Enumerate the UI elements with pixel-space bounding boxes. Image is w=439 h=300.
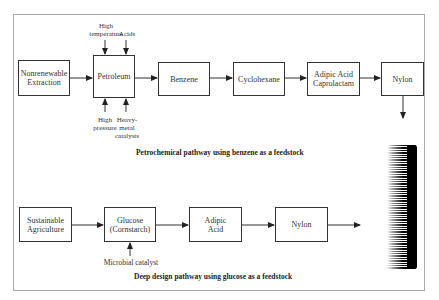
caption-petrochemical: Petrochemical pathway using benzene as a… — [136, 148, 304, 157]
node-nylon-deep-design: Nylon — [275, 207, 328, 242]
node-label-line2: (Cornstarch) — [110, 225, 150, 234]
node-label: Nylon — [393, 75, 413, 84]
node-nonrenewable-extraction: Nonrenewable Extraction — [18, 60, 70, 96]
node-label-line1: Adipic Acid — [314, 70, 353, 79]
node-adipic-acid-caprolactam: Adipic Acid Caprolactam — [307, 62, 360, 96]
input-label-line1: Acids — [114, 30, 140, 38]
node-sustainable-agriculture: Sustainable Agriculture — [19, 207, 72, 242]
node-label: Nylon — [292, 220, 312, 229]
input-label-line3: catalysts — [112, 132, 142, 140]
node-label-line1: Nonrenewable — [21, 69, 68, 78]
input-microbial-catalyst: Microbial catalyst — [100, 259, 162, 267]
node-label: Benzene — [170, 75, 198, 84]
node-label: Cyclohexane — [238, 75, 280, 84]
input-label-line2: metal — [112, 124, 142, 132]
node-adipic-acid: Adipic Acid — [189, 207, 242, 242]
caption-deep-design: Deep design pathway using glucose as a f… — [134, 272, 292, 281]
input-label-line1: Microbial catalyst — [100, 259, 162, 267]
comb-spine — [407, 145, 417, 269]
node-nylon-petrochemical: Nylon — [381, 62, 424, 96]
node-petroleum: Petroleum — [93, 55, 135, 98]
node-label-line1: Glucose — [117, 216, 143, 225]
node-cyclohexane: Cyclohexane — [233, 62, 285, 96]
input-heavy-metal-catalysts: Heavy- metal catalysts — [112, 116, 142, 140]
node-label-line2: Agriculture — [27, 225, 64, 234]
node-label-line2: Acid — [208, 225, 224, 234]
node-glucose: Glucose (Cornstarch) — [104, 207, 156, 242]
node-label: Petroleum — [98, 72, 131, 81]
node-label-line1: Sustainable — [27, 216, 64, 225]
node-label-line1: Adipic — [205, 216, 227, 225]
node-label-line2: Extraction — [27, 78, 60, 87]
input-label-line1: High — [84, 22, 128, 30]
input-label-line1: Heavy- — [112, 116, 142, 124]
node-benzene: Benzene — [158, 62, 210, 96]
node-label-line2: Caprolactam — [313, 79, 354, 88]
input-acids: Acids — [114, 30, 140, 38]
